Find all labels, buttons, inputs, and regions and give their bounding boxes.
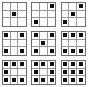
matrix-panel[interactable] bbox=[31, 31, 56, 56]
matrix-cell[interactable] bbox=[69, 32, 77, 40]
matrix-panel[interactable] bbox=[2, 60, 27, 85]
matrix-cell[interactable] bbox=[40, 11, 48, 19]
matrix-cell[interactable] bbox=[40, 76, 48, 84]
dot-marker bbox=[63, 49, 67, 53]
matrix-cell[interactable] bbox=[3, 76, 11, 84]
matrix-cell[interactable] bbox=[77, 47, 85, 55]
matrix-cell[interactable] bbox=[69, 69, 77, 77]
matrix-cell[interactable] bbox=[11, 69, 19, 77]
matrix-cell[interactable] bbox=[11, 40, 19, 48]
matrix-cell[interactable] bbox=[18, 11, 26, 19]
matrix-cell[interactable] bbox=[11, 61, 19, 69]
matrix-cell[interactable] bbox=[48, 69, 56, 77]
matrix-cell[interactable] bbox=[18, 32, 26, 40]
matrix-panel[interactable] bbox=[2, 2, 27, 27]
matrix-cell[interactable] bbox=[40, 32, 48, 40]
matrix-cell[interactable] bbox=[40, 18, 48, 26]
matrix-cell[interactable] bbox=[69, 76, 77, 84]
matrix-cell[interactable] bbox=[40, 3, 48, 11]
matrix-cell[interactable] bbox=[11, 47, 19, 55]
matrix-cell[interactable] bbox=[40, 61, 48, 69]
matrix-cell[interactable] bbox=[62, 76, 70, 84]
matrix-cell[interactable] bbox=[62, 32, 70, 40]
matrix-cell[interactable] bbox=[48, 3, 56, 11]
matrix-cell[interactable] bbox=[3, 47, 11, 55]
matrix-cell[interactable] bbox=[32, 3, 40, 11]
matrix-cell[interactable] bbox=[69, 18, 77, 26]
matrix-cell[interactable] bbox=[11, 3, 19, 11]
matrix-cell[interactable] bbox=[3, 18, 11, 26]
matrix-cell[interactable] bbox=[48, 32, 56, 40]
matrix-cell[interactable] bbox=[48, 18, 56, 26]
matrix-cell[interactable] bbox=[62, 18, 70, 26]
dot-marker bbox=[34, 78, 38, 82]
matrix-cell[interactable] bbox=[11, 11, 19, 19]
matrix-cell[interactable] bbox=[18, 47, 26, 55]
matrix-cell[interactable] bbox=[32, 76, 40, 84]
matrix-cell[interactable] bbox=[77, 32, 85, 40]
matrix-cell[interactable] bbox=[48, 47, 56, 55]
matrix-cell[interactable] bbox=[3, 32, 11, 40]
matrix-cell[interactable] bbox=[11, 32, 19, 40]
matrix-cell[interactable] bbox=[40, 40, 48, 48]
matrix-panel[interactable] bbox=[61, 60, 86, 85]
matrix-cell[interactable] bbox=[69, 61, 77, 69]
matrix-cell[interactable] bbox=[48, 40, 56, 48]
matrix-cell[interactable] bbox=[3, 3, 11, 11]
matrix-panel[interactable] bbox=[61, 2, 86, 27]
matrix-cell[interactable] bbox=[62, 3, 70, 11]
matrix-cell[interactable] bbox=[3, 40, 11, 48]
matrix-cell[interactable] bbox=[32, 61, 40, 69]
dot-marker bbox=[20, 33, 24, 37]
matrix-panel[interactable] bbox=[31, 2, 56, 27]
panel-slot bbox=[29, 58, 58, 87]
matrix-cell[interactable] bbox=[40, 69, 48, 77]
matrix-cell[interactable] bbox=[62, 47, 70, 55]
matrix-cell[interactable] bbox=[18, 3, 26, 11]
matrix-cell[interactable] bbox=[18, 69, 26, 77]
matrix-cell[interactable] bbox=[77, 40, 85, 48]
dot-marker bbox=[34, 33, 38, 37]
matrix-panel[interactable] bbox=[2, 31, 27, 56]
matrix-cell[interactable] bbox=[69, 11, 77, 19]
matrix-cell[interactable] bbox=[32, 11, 40, 19]
matrix-cell[interactable] bbox=[77, 3, 85, 11]
matrix-cell[interactable] bbox=[32, 47, 40, 55]
matrix-cell[interactable] bbox=[77, 18, 85, 26]
matrix-cell[interactable] bbox=[32, 18, 40, 26]
dot-marker bbox=[41, 78, 45, 82]
matrix-cell[interactable] bbox=[11, 18, 19, 26]
panel-slot bbox=[59, 58, 88, 87]
dot-marker bbox=[12, 78, 16, 82]
matrix-cell[interactable] bbox=[77, 69, 85, 77]
matrix-cell[interactable] bbox=[40, 47, 48, 55]
matrix-cell[interactable] bbox=[32, 69, 40, 77]
matrix-cell[interactable] bbox=[48, 76, 56, 84]
matrix-cell[interactable] bbox=[3, 61, 11, 69]
matrix-cell[interactable] bbox=[48, 61, 56, 69]
matrix-cell[interactable] bbox=[62, 11, 70, 19]
matrix-cell[interactable] bbox=[11, 76, 19, 84]
matrix-cell[interactable] bbox=[18, 18, 26, 26]
matrix-cell[interactable] bbox=[77, 61, 85, 69]
matrix-panel[interactable] bbox=[31, 60, 56, 85]
matrix-cell[interactable] bbox=[32, 32, 40, 40]
matrix-cell[interactable] bbox=[18, 61, 26, 69]
matrix-cell[interactable] bbox=[62, 61, 70, 69]
matrix-cell[interactable] bbox=[62, 40, 70, 48]
matrix-panel[interactable] bbox=[61, 31, 86, 56]
matrix-cell[interactable] bbox=[69, 47, 77, 55]
matrix-cell[interactable] bbox=[62, 69, 70, 77]
matrix-cell[interactable] bbox=[69, 40, 77, 48]
matrix-cell[interactable] bbox=[77, 11, 85, 19]
matrix-cell[interactable] bbox=[32, 40, 40, 48]
matrix-cell[interactable] bbox=[18, 40, 26, 48]
matrix-cell[interactable] bbox=[77, 76, 85, 84]
dot-marker bbox=[20, 49, 24, 53]
matrix-cell[interactable] bbox=[3, 11, 11, 19]
matrix-cell[interactable] bbox=[3, 69, 11, 77]
dot-marker bbox=[63, 78, 67, 82]
matrix-cell[interactable] bbox=[48, 11, 56, 19]
matrix-cell[interactable] bbox=[18, 76, 26, 84]
matrix-cell[interactable] bbox=[69, 3, 77, 11]
